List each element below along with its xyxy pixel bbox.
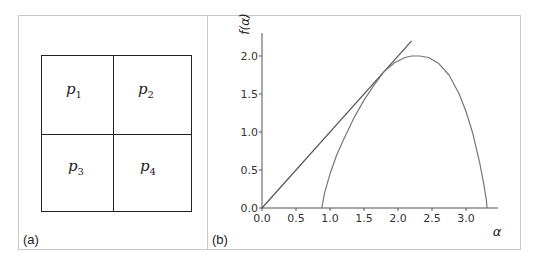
tangent-line bbox=[262, 41, 412, 208]
f-alpha-chart: 0.00.51.01.52.02.53.00.00.51.01.52.0 α f… bbox=[0, 0, 536, 267]
y-tick-label: 0.0 bbox=[241, 202, 259, 215]
x-tick-label: 2.0 bbox=[389, 212, 407, 225]
y-tick-label: 1.5 bbox=[241, 88, 259, 101]
x-tick-label: 3.0 bbox=[457, 212, 475, 225]
y-tick-label: 0.5 bbox=[241, 164, 259, 177]
x-tick-label: 2.5 bbox=[423, 212, 441, 225]
y-tick-label: 1.0 bbox=[241, 126, 259, 139]
x-tick-label: 0.5 bbox=[287, 212, 305, 225]
y-axis-label: f(α) bbox=[238, 13, 252, 35]
y-tick-label: 2.0 bbox=[241, 50, 259, 63]
spectrum-curve bbox=[322, 56, 487, 208]
chart-series bbox=[262, 41, 487, 208]
x-axis-label: α bbox=[493, 224, 502, 239]
x-tick-label: 1.0 bbox=[321, 212, 339, 225]
x-tick-label: 1.5 bbox=[355, 212, 373, 225]
chart-axes: 0.00.51.01.52.02.53.00.00.51.01.52.0 bbox=[241, 33, 499, 225]
